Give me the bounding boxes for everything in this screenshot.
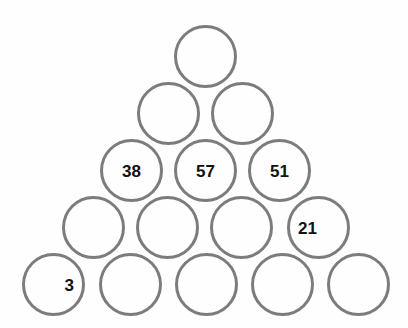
pyramid-cell-r4c4[interactable] [327,253,390,316]
pyramid-cell-r4c3[interactable] [251,253,314,316]
pyramid-cell-value-r2c2: 51 [251,162,308,179]
pyramid-cell-r3c2[interactable] [210,196,273,259]
pyramid-cell-r4c0[interactable]: 3 [22,253,85,316]
pyramid-cell-r3c1[interactable] [136,196,199,259]
pyramid-cell-r2c0[interactable]: 38 [100,139,163,202]
pyramid-cell-value-r2c0: 38 [103,162,160,179]
pyramid-cell-r2c2[interactable]: 51 [248,139,311,202]
pyramid-cell-value-r3c3: 21 [298,219,317,236]
pyramid-cell-r4c2[interactable] [175,253,238,316]
pyramid-cell-r0c0[interactable] [174,25,237,88]
pyramid-cell-r2c1[interactable]: 57 [174,139,237,202]
pyramid-cell-r4c1[interactable] [99,253,162,316]
number-pyramid-puzzle: 385751213 [0,0,408,328]
pyramid-cell-value-r4c0: 3 [65,276,74,293]
pyramid-cell-r3c3[interactable]: 21 [287,196,350,259]
pyramid-cell-r3c0[interactable] [62,196,125,259]
pyramid-cell-r1c0[interactable] [137,82,200,145]
pyramid-cell-value-r2c1: 57 [177,162,234,179]
pyramid-cell-r1c1[interactable] [211,82,274,145]
